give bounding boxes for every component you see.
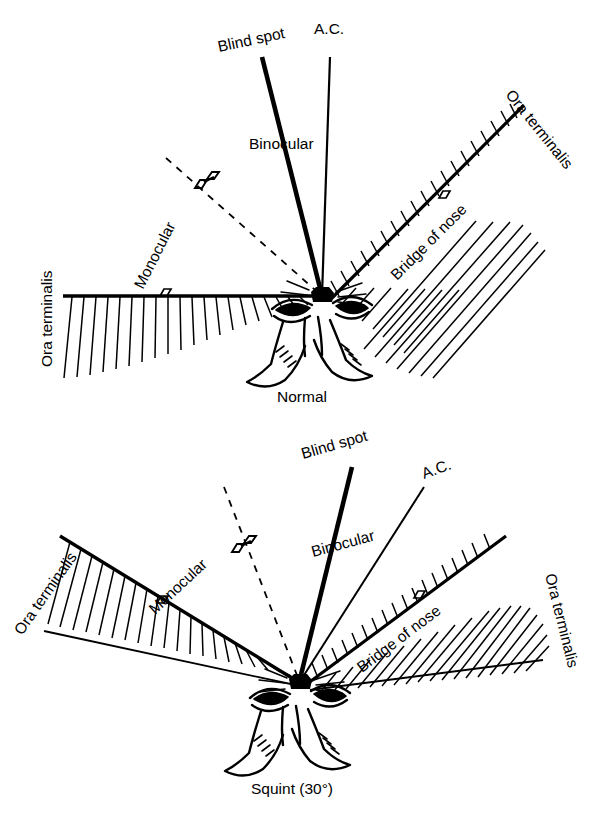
label-ac-normal: A.C. [314,20,344,37]
monocular-boundary-squint [224,487,300,683]
ac-ray-normal [322,57,330,296]
label-ora-terminalis-right-squint: Ora terminalis [542,572,582,670]
label-ac-squint: A.C. [419,456,453,482]
caption-squint: Squint (30°) [251,780,333,797]
label-ora-terminalis-left-normal: Ora terminalis [38,270,55,367]
left-field-sector-squint [44,536,300,686]
panel-normal: Blind spot A.C. Binocular Monocular Ora … [38,20,577,405]
monocular-eye-marker-squint [232,536,256,552]
anatomical-visual-field-diagram: Blind spot A.C. Binocular Monocular Ora … [0,0,603,818]
blind-spot-ray-normal [262,57,322,296]
label-blind-spot-normal: Blind spot [216,24,287,55]
head-schematic-squint [225,669,350,776]
figure-canvas: Blind spot A.C. Binocular Monocular Ora … [0,0,603,818]
monocular-boundary-normal [166,158,322,296]
label-ora-terminalis-right-normal: Ora terminalis [503,86,577,172]
label-binocular-squint: Binocular [309,527,376,560]
caption-normal: Normal [277,388,327,405]
ac-ray-squint [299,487,424,683]
label-blind-spot-squint: Blind spot [299,427,370,462]
monocular-eye-marker-normal [195,172,219,188]
label-monocular-normal: Monocular [131,219,179,291]
label-binocular-normal: Binocular [249,135,314,152]
blind-spot-ray-squint [299,467,352,683]
ora-terminalis-marker-right-normal [439,191,450,198]
panel-squint: Blind spot A.C. Binocular Monocular Ora … [11,427,582,797]
